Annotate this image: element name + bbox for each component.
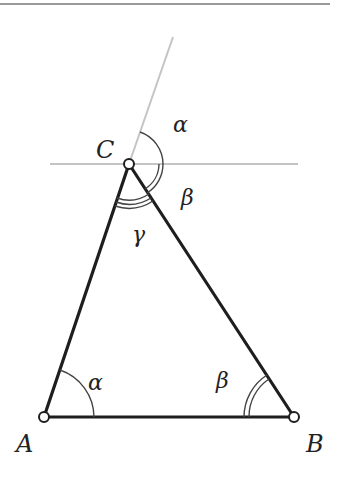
triangle-diagram: A B C α β α β γ [0,0,340,477]
extension-of-ac [129,37,173,164]
label-beta-c: β [180,185,194,210]
label-beta-b: β [215,368,229,393]
angle-arc-gamma-c-3 [117,194,149,200]
angle-arc-beta-c-inner [145,164,159,189]
label-alpha-c: α [173,112,188,137]
label-c: C [96,136,114,164]
vertex-b [289,412,299,422]
triangle [44,164,294,417]
vertex-c [124,159,134,169]
angle-arc-beta-b-inner [249,379,269,417]
label-b: B [305,430,324,458]
angle-arc-alpha-c [140,132,163,164]
label-alpha-a: α [88,370,103,395]
vertex-a [39,412,49,422]
label-a: A [14,430,33,458]
side-bc [129,164,294,417]
angle-arc-beta-b-outer [244,375,267,417]
label-gamma-c: γ [132,222,146,247]
